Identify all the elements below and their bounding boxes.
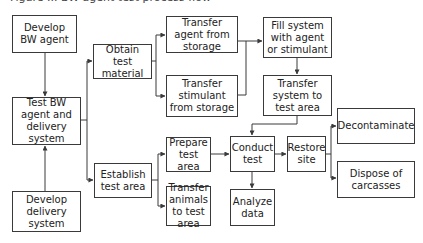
node-label: Dispose of carcasses [340, 168, 412, 192]
edge-restore-to-dispose [331, 154, 336, 178]
node-decontaminate: Decontaminate [337, 108, 415, 144]
edge-obtain-to-transfer-stimulant [156, 61, 165, 96]
node-label: Establish test area [97, 169, 149, 193]
edge-transfer-stimulant-to-fill [238, 41, 246, 95]
node-label: Test BW agent and delivery system [15, 97, 78, 145]
node-label: Restore site [288, 142, 326, 166]
node-label: Fill system with agent or stimulant [266, 20, 329, 56]
node-develop-delivery-system: Develop delivery system [12, 191, 81, 232]
edge-transfer-system-to-conduct [252, 116, 297, 135]
node-label: Prepare test area [169, 137, 208, 173]
node-label: Develop BW agent [15, 22, 74, 46]
edge-obtain-to-transfer-agent [152, 35, 165, 61]
node-label: Transfer animals to test area [168, 182, 208, 230]
node-transfer-agent: Transfer agent from storage [166, 16, 238, 53]
node-transfer-animals: Transfer animals to test area [166, 186, 211, 226]
edge-restore-to-decontaminate [326, 126, 336, 154]
edge-establish-to-animals [158, 180, 165, 206]
node-label: Transfer stimulant from storage [169, 78, 235, 114]
edge-test-to-establish [87, 120, 93, 180]
node-label: Decontaminate [338, 120, 415, 132]
node-label: Analyze data [233, 196, 272, 220]
node-obtain-test-material: Obtain test material [93, 44, 152, 79]
node-dispose-carcasses: Dispose of carcasses [337, 161, 415, 198]
node-restore-site: Restore site [287, 136, 326, 172]
node-label: Conduct test [232, 142, 274, 166]
node-transfer-system: Transfer system to test area [263, 75, 332, 116]
node-establish-test-area: Establish test area [94, 163, 152, 198]
node-analyze-data: Analyze data [230, 189, 275, 226]
edge-test-to-obtain [81, 61, 92, 120]
node-label: Develop delivery system [15, 194, 78, 230]
node-fill-system: Fill system with agent or stimulant [263, 17, 332, 58]
node-test-agent-delivery: Test BW agent and delivery system [12, 97, 81, 145]
node-label: Obtain test material [96, 44, 149, 80]
node-transfer-stimulant: Transfer stimulant from storage [166, 75, 238, 117]
edge-establish-to-prepare [152, 154, 165, 180]
node-label: Transfer system to test area [266, 78, 329, 114]
node-conduct-test: Conduct test [230, 136, 275, 172]
node-prepare-test-area: Prepare test area [166, 137, 211, 172]
node-develop-bw-agent: Develop BW agent [12, 15, 77, 53]
node-label: Transfer agent from storage [169, 17, 235, 53]
